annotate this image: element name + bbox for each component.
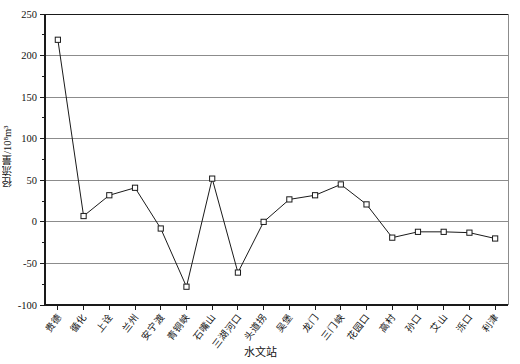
svg-text:泺口: 泺口 xyxy=(454,311,475,334)
svg-text:0: 0 xyxy=(32,216,37,227)
svg-text:兰州: 兰州 xyxy=(120,311,141,334)
data-point xyxy=(235,270,240,275)
svg-text:200: 200 xyxy=(21,50,37,61)
data-point xyxy=(390,235,395,240)
svg-text:贵德: 贵德 xyxy=(42,311,63,334)
data-point xyxy=(81,213,86,218)
svg-text:龙门: 龙门 xyxy=(300,311,321,334)
svg-text:艾山: 艾山 xyxy=(429,312,449,334)
svg-text:青铜峡: 青铜峡 xyxy=(165,311,192,341)
svg-text:100: 100 xyxy=(21,133,37,144)
gridlines xyxy=(45,14,508,305)
svg-text:50: 50 xyxy=(27,175,38,186)
svg-text:循化: 循化 xyxy=(68,311,89,334)
svg-text:利津: 利津 xyxy=(480,311,501,334)
svg-text:吴堡: 吴堡 xyxy=(274,311,295,334)
plot-canvas: -100-50050100150200250 贵德循化上诠兰州安宁渡青铜峡石嘴山… xyxy=(0,0,520,364)
series-line xyxy=(58,40,495,287)
y-axis-tick-labels: -100-50050100150200250 xyxy=(18,9,37,311)
data-point xyxy=(55,37,60,42)
svg-text:150: 150 xyxy=(21,92,37,103)
data-point xyxy=(415,229,420,234)
data-point xyxy=(467,230,472,235)
data-point xyxy=(441,229,446,234)
x-axis-title: 水文站 xyxy=(0,343,520,359)
data-point xyxy=(261,219,266,224)
data-point xyxy=(364,202,369,207)
data-point xyxy=(210,176,215,181)
svg-text:250: 250 xyxy=(21,9,37,20)
svg-text:上诠: 上诠 xyxy=(94,311,115,334)
data-point xyxy=(132,185,137,190)
svg-text:头道拐: 头道拐 xyxy=(242,311,269,341)
data-point xyxy=(312,193,317,198)
y-axis-ticks xyxy=(40,14,45,305)
svg-text:孙口: 孙口 xyxy=(403,311,424,334)
data-point xyxy=(287,197,292,202)
svg-text:三门峡: 三门峡 xyxy=(319,311,346,341)
y-axis-title: 径流量/10⁸m³ xyxy=(2,96,20,216)
svg-text:-100: -100 xyxy=(18,300,37,311)
svg-text:石嘴山: 石嘴山 xyxy=(191,312,217,342)
svg-text:安宁渡: 安宁渡 xyxy=(139,311,166,341)
plot-frame xyxy=(45,14,508,305)
svg-text:高村: 高村 xyxy=(377,311,398,334)
data-point xyxy=(493,236,498,241)
data-point xyxy=(184,284,189,289)
series-markers xyxy=(55,37,497,289)
data-point xyxy=(107,193,112,198)
svg-text:花园口: 花园口 xyxy=(345,311,372,341)
svg-text:-50: -50 xyxy=(23,258,37,269)
runoff-line-chart: 径流量/10⁸m³ -100-50050100150200250 贵德循化上诠兰… xyxy=(0,0,520,364)
data-point xyxy=(338,182,343,187)
data-point xyxy=(158,226,163,231)
x-axis-ticks xyxy=(58,305,495,310)
